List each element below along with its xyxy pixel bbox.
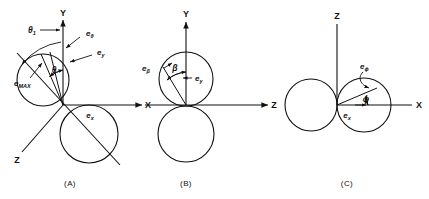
theta-label: θ [52, 65, 57, 75]
phi-label: ϕ [363, 94, 370, 104]
caption-b: (B) [180, 179, 192, 188]
theta1-label: θ1 [28, 25, 36, 36]
axis-z-label: Z [14, 155, 20, 165]
e-beta-label: eβ [142, 64, 150, 74]
panel-a: Y X Z θ1 θ eθ ey eMAX ex [14, 8, 151, 188]
e-phi-leader [360, 72, 369, 88]
beta-label: β [171, 63, 177, 73]
axis-y-label: Y [60, 8, 66, 18]
e-max-leader [30, 63, 42, 78]
e-y-label: ey [97, 48, 105, 58]
lobe-left [285, 79, 337, 131]
panel-b: Y Z β eβ ey (B) [142, 9, 277, 188]
lobe-lower [158, 106, 214, 162]
caption-a: (A) [64, 179, 76, 188]
theta1-arc [22, 42, 61, 64]
e-x-label: ex [86, 111, 94, 121]
e-theta-leader [66, 37, 80, 48]
axis-z-line [22, 105, 63, 152]
e-phi-label: eϕ [360, 62, 369, 72]
e-max-label: eMAX [14, 79, 31, 89]
e-theta-label: eθ [86, 29, 94, 39]
e-beta-leader [164, 63, 172, 68]
axis-z-label: Z [271, 100, 277, 110]
e-y-label: ey [195, 74, 203, 84]
figure-container: Y X Z θ1 θ eθ ey eMAX ex [0, 0, 429, 199]
panel-c: Z X ϕ eϕ ex (C) [285, 11, 422, 188]
e-x-label: ex [343, 111, 351, 121]
e-y-leader [70, 55, 92, 62]
axis-z-label: Z [334, 11, 340, 21]
caption-c: (C) [341, 179, 353, 188]
axis-x-label: X [416, 100, 422, 110]
diagram-svg: Y X Z θ1 θ eθ ey eMAX ex [0, 0, 429, 199]
e-phi-ray [337, 88, 377, 105]
axis-y-label: Y [183, 9, 189, 19]
